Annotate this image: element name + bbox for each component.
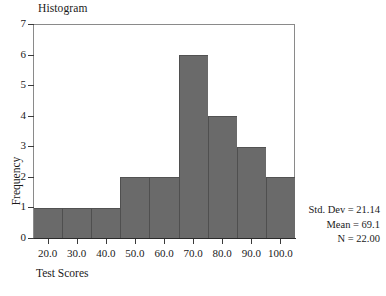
x-axis-tick <box>280 239 281 244</box>
x-axis-tick <box>77 239 78 244</box>
sample-size-stat: N = 22.00 <box>288 232 380 247</box>
x-axis-tick-label: 100.0 <box>257 247 303 259</box>
x-axis-tick <box>193 239 194 244</box>
y-axis-tick-label: 0 <box>4 232 26 243</box>
y-axis-tick-label: 4 <box>4 110 26 121</box>
histogram-bar <box>120 177 149 238</box>
x-axis-title: Test Scores <box>36 267 89 280</box>
y-axis-tick <box>28 177 34 178</box>
x-axis-tick <box>106 239 107 244</box>
y-axis-tick <box>28 207 34 208</box>
y-axis-title: Frequency <box>10 141 22 221</box>
histogram-bar <box>91 208 120 238</box>
histogram-bar <box>208 116 237 238</box>
y-axis-tick <box>28 116 34 117</box>
histogram-figure: Histogram 01234567 Frequency 20.030.040.… <box>0 0 386 296</box>
histogram-bar <box>179 55 208 238</box>
y-axis-tick-label: 6 <box>4 49 26 60</box>
std-dev-stat: Std. Dev = 21.14 <box>288 203 380 218</box>
y-axis-tick-label: 7 <box>4 18 26 29</box>
x-axis-tick <box>164 239 165 244</box>
x-axis-tick <box>135 239 136 244</box>
bar-series <box>34 25 295 238</box>
mean-stat: Mean = 69.1 <box>288 218 380 233</box>
histogram-bar <box>149 177 178 238</box>
x-axis-tick <box>222 239 223 244</box>
histogram-bar <box>34 208 62 238</box>
histogram-bar <box>62 208 91 238</box>
y-axis-tick <box>28 24 34 25</box>
histogram-bar <box>237 147 266 238</box>
y-axis-tick <box>28 146 34 147</box>
statistics-annotation: Std. Dev = 21.14 Mean = 69.1 N = 22.00 <box>288 203 380 247</box>
y-axis-tick <box>28 85 34 86</box>
y-axis-tick <box>28 238 34 239</box>
x-axis-tick <box>48 239 49 244</box>
chart-title: Histogram <box>38 2 87 15</box>
x-axis-tick <box>251 239 252 244</box>
y-axis-tick <box>28 55 34 56</box>
y-axis-tick-label: 5 <box>4 79 26 90</box>
